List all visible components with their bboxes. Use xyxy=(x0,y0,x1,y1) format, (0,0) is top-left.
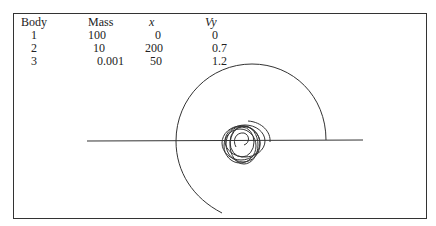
orbit-plot xyxy=(0,0,436,226)
outer-trajectory xyxy=(176,64,326,213)
inner-orbit-loops xyxy=(222,121,270,164)
